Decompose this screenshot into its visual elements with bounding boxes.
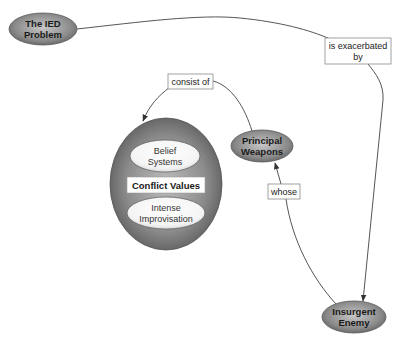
node-label-line: Principal xyxy=(242,135,282,146)
node-belief-systems[interactable]: Belief Systems xyxy=(130,140,200,172)
node-conflict-values[interactable]: Belief Systems Conflict Values Intense I… xyxy=(110,118,222,250)
link-whose-to-weapons[interactable] xyxy=(275,163,281,184)
link-label-whose[interactable]: whose xyxy=(268,184,300,199)
node-label-line: The IED xyxy=(25,18,61,29)
node-label-line: Systems xyxy=(148,157,183,167)
conflict-values-title: Conflict Values xyxy=(127,177,205,193)
node-ied-problem[interactable]: The IED Problem xyxy=(9,13,77,45)
link-label-text: whose xyxy=(270,187,297,197)
link-consist-to-conflict[interactable] xyxy=(143,87,170,121)
link-label-line: is exacerbated xyxy=(329,41,388,51)
link-label-is-exacerbated-by[interactable]: is exacerbated by xyxy=(325,38,391,64)
node-label-line: Enemy xyxy=(338,317,370,328)
node-label-line: Problem xyxy=(24,29,62,40)
link-weapons-to-consist xyxy=(213,81,252,131)
concept-map: The IED Problem is exacerbated by consis… xyxy=(0,0,403,342)
link-label-consist-of[interactable]: consist of xyxy=(168,74,213,89)
node-label-line: Improvisation xyxy=(139,214,193,224)
link-label-text: consist of xyxy=(171,77,210,87)
node-insurgent-enemy[interactable]: Insurgent Enemy xyxy=(322,301,386,333)
node-label-line: Intense xyxy=(151,203,181,213)
link-label-line: by xyxy=(353,52,363,62)
node-principal-weapons[interactable]: Principal Weapons xyxy=(231,130,293,162)
link-insurgent-to-whose xyxy=(286,199,336,304)
node-label-line: Insurgent xyxy=(332,306,376,317)
node-label-line: Weapons xyxy=(241,146,283,157)
link-exacerbated-to-insurgent[interactable] xyxy=(363,64,383,301)
node-intense-improvisation[interactable]: Intense Improvisation xyxy=(127,197,205,229)
conflict-values-label: Conflict Values xyxy=(132,180,200,191)
link-ied-to-exacerbated xyxy=(77,17,330,39)
node-label-line: Belief xyxy=(154,146,177,156)
